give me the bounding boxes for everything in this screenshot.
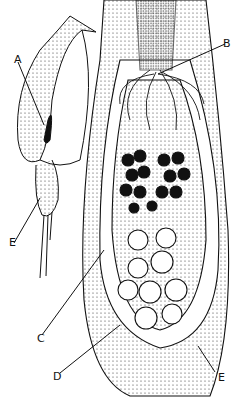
label-e-right: E <box>218 372 225 383</box>
label-d: D <box>53 371 61 382</box>
label-b: B <box>223 38 231 49</box>
label-a: A <box>14 54 22 65</box>
botanical-diagram: A B E C D E <box>0 0 242 403</box>
label-e-left: E <box>9 237 16 248</box>
spathe-section <box>42 0 229 396</box>
label-c: C <box>37 333 45 344</box>
